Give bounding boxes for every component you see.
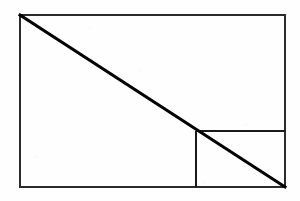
figure-canvas: Geometric construction: rectangle with d… xyxy=(0,0,300,201)
geometric-diagram: Geometric construction: rectangle with d… xyxy=(0,0,300,201)
